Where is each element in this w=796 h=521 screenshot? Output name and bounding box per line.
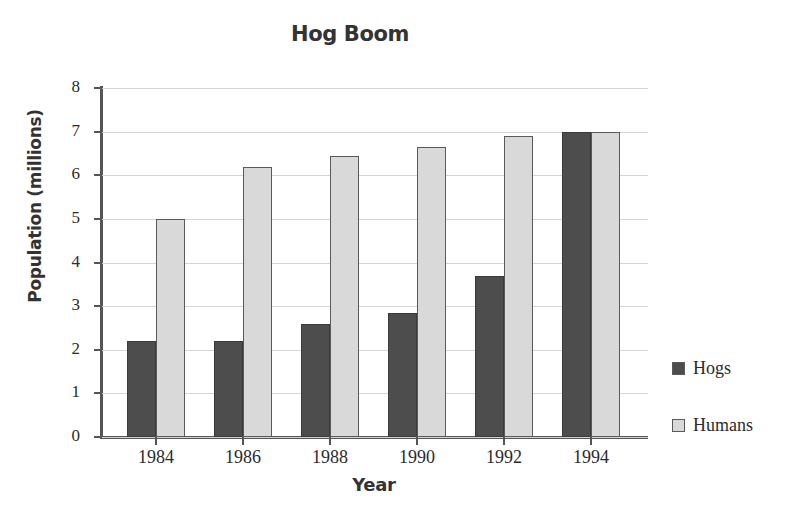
y-axis-tick-label: 5 [50,208,80,228]
legend-swatch-humans [672,419,685,432]
plot-area [102,88,648,437]
chart-legend: HogsHumans [672,358,792,472]
legend-label: Hogs [693,358,731,379]
x-axis-tick [242,436,244,445]
x-axis-tick [416,436,418,445]
bar-humans-1986 [243,167,272,437]
legend-item-hogs: Hogs [672,358,792,379]
y-axis-tick-label: 3 [50,295,80,315]
gridline [102,437,648,438]
y-axis-tick-label: 6 [50,164,80,184]
x-axis-tick [503,436,505,445]
legend-label: Humans [693,415,753,436]
x-axis-tick [329,436,331,445]
bar-hogs-1986 [214,341,243,437]
x-axis-tick-label: 1990 [382,447,452,468]
x-axis-tick-label: 1984 [121,447,191,468]
x-axis-tick-label: 1986 [208,447,278,468]
gridline [102,88,648,89]
bar-hogs-1990 [388,313,417,437]
y-axis-tick-label: 4 [50,252,80,272]
bar-humans-1988 [330,156,359,437]
x-axis-tick-label: 1992 [469,447,539,468]
chart-title: Hog Boom [0,22,700,46]
x-axis-tick-label: 1988 [295,447,365,468]
y-axis-title: Population (millions) [25,56,45,356]
x-axis-tick [590,436,592,445]
bar-hogs-1984 [127,341,156,437]
legend-swatch-hogs [672,362,685,375]
chart-figure: Hog Boom 876543210 198419861988199019921… [0,0,796,521]
bar-humans-1984 [156,219,185,437]
x-axis-tick-label: 1994 [556,447,626,468]
bar-humans-1992 [504,136,533,437]
legend-item-humans: Humans [672,415,792,436]
bar-hogs-1992 [475,276,504,437]
y-axis-tick-label: 8 [50,77,80,97]
bar-hogs-1988 [301,324,330,437]
x-axis-tick [155,436,157,445]
y-axis-tick-label: 0 [50,426,80,446]
y-axis-tick-label: 7 [50,121,80,141]
bar-humans-1990 [417,147,446,437]
bar-hogs-1994 [562,132,591,437]
x-axis-title: Year [100,474,648,495]
y-axis-tick-label: 1 [50,382,80,402]
y-axis-tick-label: 2 [50,339,80,359]
bar-humans-1994 [591,132,620,437]
